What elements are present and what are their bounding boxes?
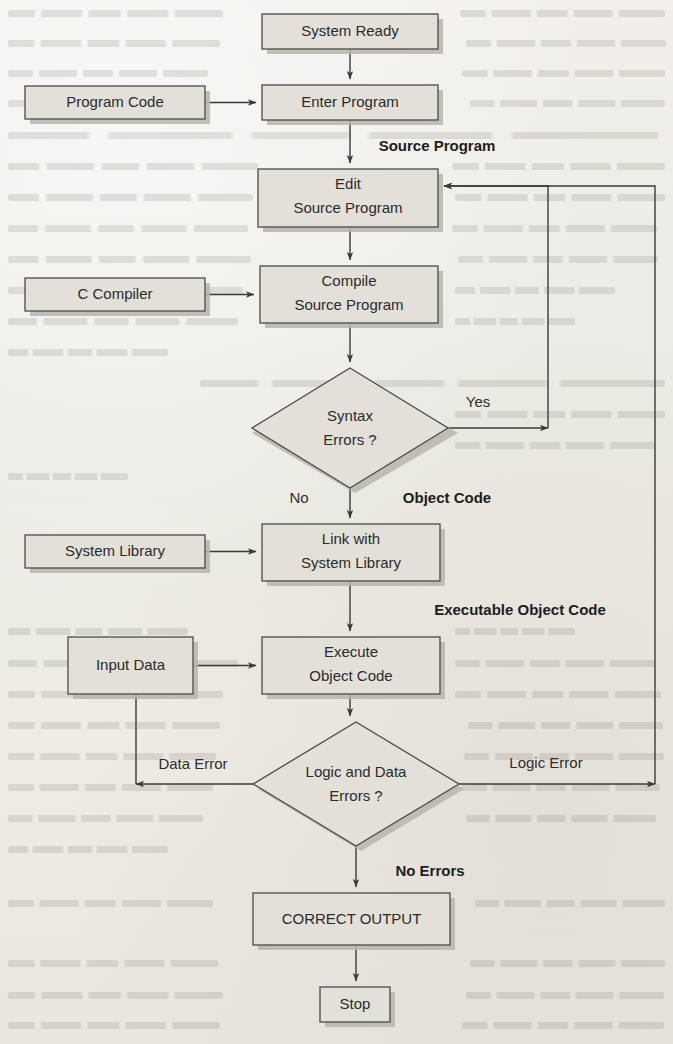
edge-label-data-error: Data Error [158,755,227,772]
node-system-library[interactable]: System Library [25,535,210,573]
edge-label-no-errors: No Errors [395,862,464,879]
node-link-with-system-library[interactable]: Link with System Library [262,524,445,586]
enter-program-label: Enter Program [301,93,399,110]
edge-label-executable-object-code: Executable Object Code [434,601,606,618]
c-compiler-label: C Compiler [77,285,152,302]
syntax-errors-diamond[interactable] [252,368,448,488]
system-library-label: System Library [65,542,166,559]
node-correct-output[interactable]: CORRECT OUTPUT [253,893,455,950]
execute-object-code-label-line1: Execute [324,643,378,660]
flowchart-canvas: System Ready Program Code Enter Program … [0,0,673,1044]
node-execute-object-code[interactable]: Execute Object Code [262,637,445,699]
node-input-data[interactable]: Input Data [68,637,198,699]
compile-source-program-label-line1: Compile [321,272,376,289]
stop-label: Stop [340,995,371,1012]
syntax-errors-label-line2: Errors ? [323,431,376,448]
edge-label-yes: Yes [466,393,490,410]
edit-source-program-label-line2: Source Program [293,199,402,216]
node-syntax-errors-decision[interactable]: Syntax Errors ? [252,368,458,493]
logic-and-data-errors-label-line1: Logic and Data [306,763,408,780]
connector-syntax-errors-yes-riser [444,186,548,428]
correct-output-label: CORRECT OUTPUT [282,910,422,927]
logic-and-data-errors-diamond[interactable] [253,722,459,846]
link-with-system-library-label-line1: Link with [322,530,380,547]
input-data-label: Input Data [96,656,166,673]
link-with-system-library-label-line2: System Library [301,554,402,571]
execute-object-code-label-line2: Object Code [309,667,392,684]
edge-label-object-code: Object Code [403,489,491,506]
node-c-compiler[interactable]: C Compiler [25,278,210,316]
edit-source-program-label-line1: Edit [335,175,362,192]
program-code-label: Program Code [66,93,164,110]
flowchart-page: System Ready Program Code Enter Program … [0,0,673,1044]
node-compile-source-program[interactable]: Compile Source Program [260,266,443,328]
edge-label-logic-error: Logic Error [509,754,582,771]
node-program-code[interactable]: Program Code [25,86,210,124]
node-enter-program[interactable]: Enter Program [262,85,443,125]
node-edit-source-program[interactable]: Edit Source Program [258,169,443,232]
edge-label-no: No [289,489,308,506]
syntax-errors-label-line1: Syntax [327,407,373,424]
edge-label-source-program: Source Program [379,137,496,154]
system-ready-label: System Ready [301,22,399,39]
compile-source-program-label-line2: Source Program [294,296,403,313]
node-logic-and-data-errors-decision[interactable]: Logic and Data Errors ? [253,722,464,851]
node-stop[interactable]: Stop [320,987,395,1027]
logic-and-data-errors-label-line2: Errors ? [329,787,382,804]
connector-logic-error-riser [444,186,655,784]
node-system-ready[interactable]: System Ready [262,14,443,54]
